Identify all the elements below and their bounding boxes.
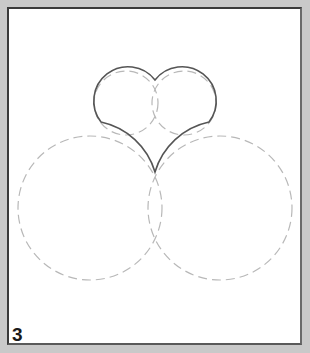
left-construction-circle	[18, 136, 162, 280]
right-construction-circle	[148, 136, 292, 280]
step-number-label: 3	[12, 325, 23, 344]
right-lobe-guide-circle	[152, 71, 216, 135]
heart-outline	[94, 67, 216, 172]
heart-construction-diagram	[0, 0, 310, 353]
left-lobe-guide-circle	[94, 71, 158, 135]
